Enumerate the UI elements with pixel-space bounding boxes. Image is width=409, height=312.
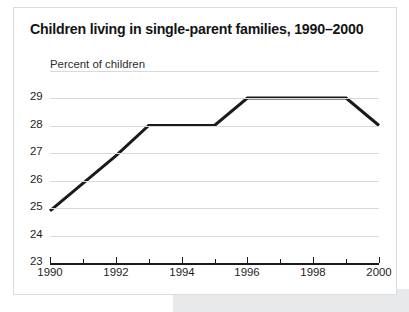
x-tick — [215, 259, 216, 263]
chart-title: Children living in single-parent familie… — [30, 21, 390, 37]
x-tick — [50, 257, 51, 263]
x-tick — [149, 259, 150, 263]
x-tick — [182, 257, 183, 263]
y-tick-label: 25 — [30, 200, 47, 212]
y-tick-label: 29 — [30, 90, 47, 102]
x-tick — [247, 257, 248, 263]
gridline — [50, 98, 379, 99]
y-tick-label: 24 — [30, 228, 47, 240]
x-tick-label: 1996 — [234, 266, 259, 278]
y-tick-label: 27 — [30, 145, 47, 157]
x-tick — [116, 257, 117, 263]
y-tick-label: 26 — [30, 173, 47, 185]
gridline — [50, 181, 379, 182]
x-tick-label: 1992 — [103, 266, 128, 278]
x-tick — [83, 259, 84, 263]
chart-plot-area: Percent of children 29282726252423199019… — [30, 58, 382, 280]
gridline — [50, 126, 379, 127]
x-axis-line — [50, 263, 379, 265]
gridline — [50, 153, 379, 154]
chart-card: Children living in single-parent familie… — [13, 7, 397, 295]
y-tick-label: 28 — [30, 118, 47, 130]
x-tick-label: 1994 — [169, 266, 194, 278]
y-label-underline — [50, 71, 379, 72]
x-tick — [379, 257, 380, 263]
gridline — [50, 208, 379, 209]
x-tick-label: 1998 — [300, 266, 325, 278]
line-series-svg — [30, 58, 382, 280]
series-line — [50, 98, 379, 211]
x-tick-label: 2000 — [366, 266, 391, 278]
x-tick-label: 1990 — [37, 266, 62, 278]
gridline — [50, 236, 379, 237]
x-tick — [313, 257, 314, 263]
x-tick — [280, 259, 281, 263]
x-tick — [346, 259, 347, 263]
